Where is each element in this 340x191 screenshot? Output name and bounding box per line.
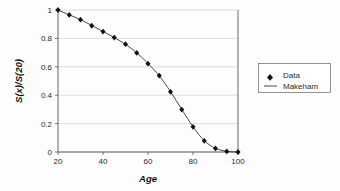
x-tick-label: 60 (144, 157, 153, 166)
legend-label-data: Data (283, 71, 300, 80)
chart-legend: Data Makeham (259, 64, 331, 93)
x-tick-label: 40 (99, 157, 108, 166)
y-tick-label: 0.6 (41, 63, 53, 72)
y-tick-label: 0.2 (41, 120, 53, 129)
x-tick-label: 80 (189, 157, 198, 166)
y-tick-label: 0.8 (41, 34, 53, 43)
x-axis-title: Age (138, 173, 158, 184)
y-tick-label: 1 (48, 6, 53, 15)
legend-label-makeham: Makeham (283, 82, 318, 91)
y-tick-label: 0 (48, 148, 53, 157)
x-tick-label: 100 (231, 157, 245, 166)
y-tick-label: 0.4 (41, 91, 53, 100)
y-axis-title: S(x)/S(20) (13, 59, 24, 103)
survival-curve-chart: 00.20.40.60.81 20406080100 Age S(x)/S(20… (0, 0, 340, 191)
chart-figure: 00.20.40.60.81 20406080100 Age S(x)/S(20… (0, 0, 340, 191)
x-tick-label: 20 (54, 157, 63, 166)
